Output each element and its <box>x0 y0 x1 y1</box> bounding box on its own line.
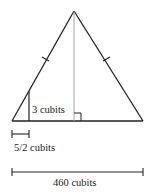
small-base-label: 5/2 cubits <box>14 143 55 154</box>
triangle-diagram <box>0 0 150 193</box>
right-side <box>74 11 143 121</box>
full-base-dimension <box>12 168 143 176</box>
small-height-label: 3 cubits <box>32 105 65 116</box>
full-base-label: 460 cubits <box>53 178 96 189</box>
small-base-dimension <box>12 130 29 138</box>
right-angle-marker <box>74 113 81 121</box>
